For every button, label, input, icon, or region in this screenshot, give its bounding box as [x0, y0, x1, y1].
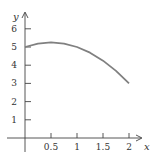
data-curve [25, 42, 129, 83]
y-axis-label: y [12, 11, 19, 22]
function-plot: 0.511.52123456 x y [0, 0, 150, 162]
x-tick-label: 2 [126, 142, 132, 152]
y-tick-label: 3 [11, 78, 17, 88]
x-tick-label: 0.5 [44, 142, 59, 152]
y-tick-label: 5 [11, 42, 17, 52]
x-tick-label: 1.5 [96, 142, 111, 152]
y-tick-label: 6 [11, 24, 17, 34]
y-tick-label: 2 [11, 97, 17, 107]
x-tick-label: 1 [74, 142, 80, 152]
axes [7, 12, 142, 152]
y-tick-label: 4 [11, 60, 17, 70]
tick-labels: 0.511.52123456 [11, 24, 132, 152]
y-tick-label: 1 [11, 115, 17, 125]
tick-marks [25, 29, 129, 138]
x-axis-label: x [144, 141, 150, 152]
